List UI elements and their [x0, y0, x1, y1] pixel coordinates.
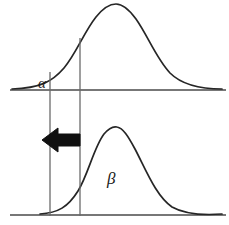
- alpha-region-label: α: [38, 76, 46, 91]
- statistics-figure: α β: [0, 0, 229, 225]
- critical-value-shift-arrow: [42, 128, 80, 152]
- figure-canvas: [0, 0, 229, 225]
- beta-region-label: β: [107, 170, 115, 187]
